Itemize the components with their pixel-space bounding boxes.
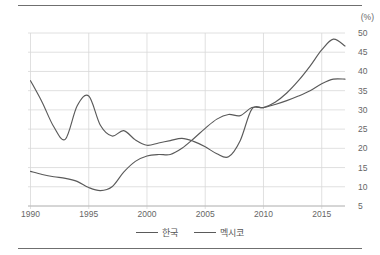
y-axis-tick-label: 15 — [358, 163, 374, 173]
x-axis-tick-label: 2010 — [254, 209, 273, 219]
y-axis-tick-label: 40 — [358, 66, 374, 76]
x-axis-tick-label: 1995 — [79, 209, 98, 219]
legend-line-swatch-icon — [194, 232, 216, 233]
chart-figure: (%) 5045403530252015105 1990199520002005… — [0, 0, 380, 255]
legend-item-2[interactable]: 멕시코 — [194, 226, 244, 239]
y-axis-tick-label: 50 — [358, 28, 374, 38]
legend-line-swatch-icon — [136, 232, 158, 233]
y-axis-tick-label: 5 — [358, 201, 374, 211]
chart-legend: 한국멕시코 — [0, 226, 380, 239]
y-axis-tick-label: 20 — [358, 143, 374, 153]
y-axis-tick-label: 35 — [358, 86, 374, 96]
x-axis-tick-label: 1990 — [21, 209, 40, 219]
y-axis-tick-label: 45 — [358, 47, 374, 57]
series-line-1 — [31, 79, 346, 191]
y-axis-tick-label: 25 — [358, 124, 374, 134]
x-axis-tick-label: 2000 — [138, 209, 157, 219]
legend-item-1[interactable]: 한국 — [136, 226, 178, 239]
x-axis-tick-label: 2015 — [312, 209, 331, 219]
legend-item-label: 멕시코 — [220, 226, 244, 239]
x-axis-tick-label: 2005 — [196, 209, 215, 219]
series-line-2 — [31, 39, 346, 157]
y-axis-tick-label: 10 — [358, 182, 374, 192]
y-axis-tick-label: 30 — [358, 105, 374, 115]
legend-item-label: 한국 — [162, 226, 178, 239]
